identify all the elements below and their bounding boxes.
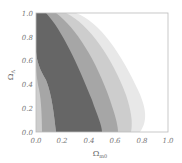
y-axis-ticks: 0.0 0.2 0.4 0.6 0.8 1.0	[22, 10, 34, 137]
y-tick-4: 0.8	[22, 34, 34, 42]
y-tick-5: 1.0	[22, 10, 34, 18]
y-tick-0: 0.0	[22, 129, 34, 137]
x-tick-0: 0.0	[30, 137, 42, 145]
x-tick-1: 0.2	[56, 137, 68, 145]
y-axis-label: ΩΛ	[6, 69, 16, 80]
y-tick-3: 0.6	[22, 57, 34, 65]
contour-chart: 0.0 0.2 0.4 0.6 0.8 1.0 0.0 0.2 0.4 0.6 …	[0, 0, 182, 163]
contour-bands	[36, 13, 145, 132]
x-axis-label: Ωm0	[93, 149, 108, 159]
y-tick-2: 0.4	[22, 81, 33, 89]
x-tick-3: 0.6	[109, 137, 121, 145]
x-tick-4: 0.8	[136, 137, 148, 145]
x-tick-5: 1.0	[162, 137, 174, 145]
x-axis-ticks: 0.0 0.2 0.4 0.6 0.8 1.0	[30, 137, 174, 145]
x-tick-2: 0.4	[83, 137, 94, 145]
y-tick-1: 0.2	[22, 105, 34, 113]
